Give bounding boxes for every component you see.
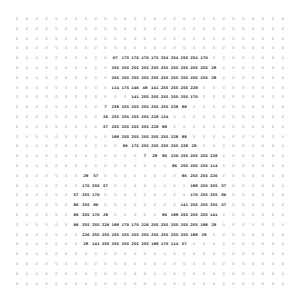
- grid-cell: 0: [150, 25, 160, 35]
- grid-cell: 0: [61, 64, 71, 74]
- grid-cell: 0: [22, 15, 32, 25]
- grid-cell: 226: [209, 172, 219, 182]
- grid-cell: 0: [42, 64, 52, 74]
- grid-cell: 0: [32, 15, 42, 25]
- grid-cell: 0: [32, 142, 42, 152]
- grid-cell: 0: [42, 201, 52, 211]
- grid-cell: 0: [22, 44, 32, 54]
- grid-cell: 0: [22, 280, 32, 290]
- grid-cell: 0: [61, 133, 71, 143]
- grid-cell: 0: [248, 133, 258, 143]
- grid-cell: 0: [209, 123, 219, 133]
- grid-cell: 0: [258, 231, 268, 241]
- grid-cell: 0: [150, 162, 160, 172]
- grid-cell: 0: [229, 231, 239, 241]
- grid-cell: 0: [12, 221, 22, 231]
- grid-cell: 255: [160, 221, 170, 231]
- grid-cell: 0: [42, 182, 52, 192]
- grid-cell: 0: [209, 270, 219, 280]
- grid-cell: 0: [140, 280, 150, 290]
- grid-cell: 0: [199, 250, 209, 260]
- grid-cell: 0: [189, 250, 199, 260]
- grid-cell: 255: [179, 162, 189, 172]
- grid-cell: 0: [170, 123, 180, 133]
- grid-cell: 0: [278, 191, 288, 201]
- grid-cell: 0: [248, 152, 258, 162]
- grid-cell: 0: [71, 182, 81, 192]
- grid-cell: 0: [81, 103, 91, 113]
- grid-cell: 255: [160, 103, 170, 113]
- grid-cell: 0: [81, 133, 91, 143]
- grid-cell: 86: [170, 162, 180, 172]
- grid-cell: 255: [209, 191, 219, 201]
- grid-cell: 0: [22, 260, 32, 270]
- grid-cell: 0: [229, 240, 239, 250]
- grid-cell: 0: [189, 35, 199, 45]
- grid-cell: 0: [238, 25, 248, 35]
- grid-cell: 0: [238, 250, 248, 260]
- grid-cell: 0: [71, 25, 81, 35]
- grid-cell: 0: [12, 113, 22, 123]
- grid-cell: 0: [238, 74, 248, 84]
- grid-cell: 0: [150, 35, 160, 45]
- grid-cell: 0: [51, 270, 61, 280]
- grid-cell: 0: [32, 44, 42, 54]
- grid-cell: 255: [81, 211, 91, 221]
- grid-cell: 0: [219, 152, 229, 162]
- grid-cell: 0: [91, 93, 101, 103]
- grid-cell: 0: [120, 35, 130, 45]
- grid-cell: 255: [199, 201, 209, 211]
- grid-cell: 0: [110, 270, 120, 280]
- grid-cell: 228: [189, 84, 199, 94]
- grid-cell: 0: [238, 113, 248, 123]
- grid-cell: 0: [278, 182, 288, 192]
- grid-cell: 57: [71, 191, 81, 201]
- grid-cell: 0: [238, 270, 248, 280]
- grid-cell: 0: [150, 211, 160, 221]
- grid-cell: 0: [22, 231, 32, 241]
- grid-cell: 0: [71, 93, 81, 103]
- grid-cell: 0: [219, 123, 229, 133]
- grid-cell: 57: [219, 182, 229, 192]
- grid-cell: 0: [160, 270, 170, 280]
- grid-cell: 0: [219, 280, 229, 290]
- grid-cell: 0: [22, 201, 32, 211]
- grid-cell: 0: [51, 280, 61, 290]
- grid-cell: 0: [22, 93, 32, 103]
- grid-cell: 0: [22, 221, 32, 231]
- grid-row: 0000000000000000000000000000: [12, 25, 288, 35]
- grid-cell: 0: [199, 270, 209, 280]
- grid-cell: 0: [238, 260, 248, 270]
- grid-cell: 0: [101, 162, 111, 172]
- grid-cell: 0: [278, 162, 288, 172]
- grid-cell: 0: [268, 162, 278, 172]
- grid-cell: 0: [120, 25, 130, 35]
- grid-cell: 0: [61, 44, 71, 54]
- grid-cell: 0: [150, 270, 160, 280]
- grid-cell: 0: [61, 142, 71, 152]
- grid-cell: 0: [22, 250, 32, 260]
- grid-cell: 0: [12, 103, 22, 113]
- grid-cell: 0: [91, 260, 101, 270]
- grid-cell: 0: [219, 103, 229, 113]
- grid-cell: 0: [101, 64, 111, 74]
- grid-cell: 0: [150, 15, 160, 25]
- grid-cell: 29: [209, 74, 219, 84]
- grid-cell: 0: [170, 182, 180, 192]
- grid-cell: 255: [150, 93, 160, 103]
- grid-cell: 0: [238, 84, 248, 94]
- grid-cell: 0: [160, 260, 170, 270]
- grid-cell: 0: [61, 123, 71, 133]
- grid-cell: 0: [258, 182, 268, 192]
- grid-cell: 0: [278, 201, 288, 211]
- grid-cell: 0: [71, 44, 81, 54]
- grid-cell: 255: [160, 64, 170, 74]
- grid-cell: 0: [42, 221, 52, 231]
- grid-cell: 0: [81, 260, 91, 270]
- grid-cell: 255: [110, 231, 120, 241]
- grid-cell: 0: [91, 25, 101, 35]
- grid-cell: 0: [42, 74, 52, 84]
- grid-cell: 0: [170, 260, 180, 270]
- grid-cell: 0: [81, 113, 91, 123]
- grid-cell: 0: [130, 260, 140, 270]
